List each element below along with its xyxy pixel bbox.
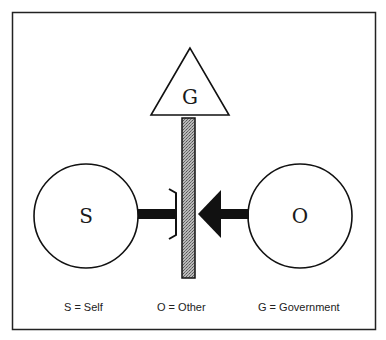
barrier-bar bbox=[182, 118, 195, 278]
self-node: S bbox=[34, 164, 138, 268]
legend-item-government: G = Government bbox=[258, 301, 340, 313]
other-node: O bbox=[248, 164, 352, 268]
legend-item-other: O = Other bbox=[157, 301, 206, 313]
diagram-canvas: G S O S = Self O = Other G = Government bbox=[0, 0, 386, 340]
self-letter: S bbox=[79, 204, 93, 228]
arrow-shaft bbox=[218, 209, 249, 219]
government-letter: G bbox=[182, 85, 198, 109]
connector-line bbox=[138, 209, 176, 219]
other-letter: O bbox=[292, 204, 308, 228]
legend-item-self: S = Self bbox=[64, 301, 104, 313]
